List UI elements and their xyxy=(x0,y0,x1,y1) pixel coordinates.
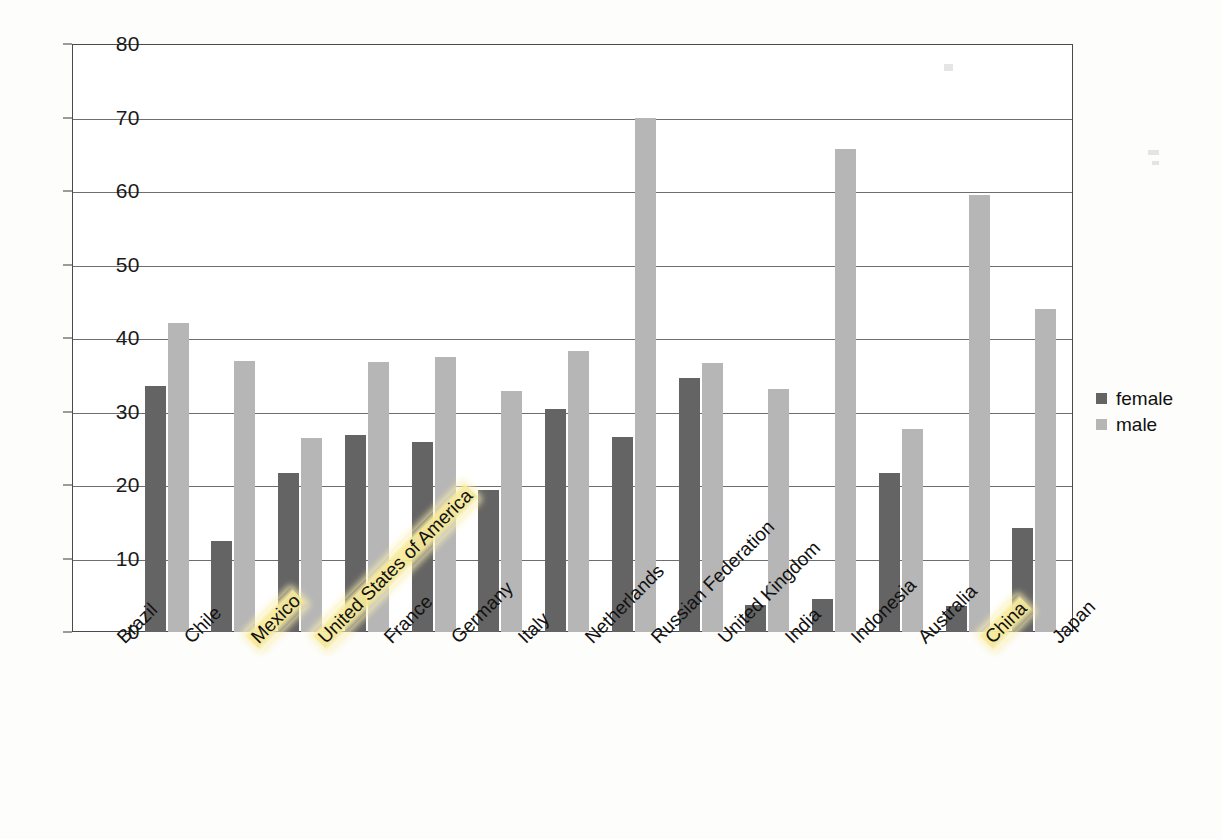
scan-speck xyxy=(944,64,953,71)
bar-male[interactable] xyxy=(168,323,189,632)
bar-male[interactable] xyxy=(568,351,589,633)
bar-group xyxy=(472,44,539,632)
bar-female[interactable] xyxy=(545,409,566,632)
bar-male[interactable] xyxy=(234,361,255,632)
scan-speck xyxy=(1148,150,1159,155)
bar-male[interactable] xyxy=(835,149,856,632)
bar-chart-figure: 01020304050607080 BrazilChileMexicoUnite… xyxy=(0,0,1221,839)
y-tick-mark-70 xyxy=(63,117,72,118)
y-tick-mark-30 xyxy=(63,411,72,412)
bar-male[interactable] xyxy=(1035,309,1056,632)
bar-group xyxy=(72,44,139,632)
y-tick-mark-10 xyxy=(63,558,72,559)
male-swatch-icon xyxy=(1096,419,1107,430)
bar-male[interactable] xyxy=(635,118,656,633)
bars-layer xyxy=(72,44,1073,632)
bar-group xyxy=(673,44,740,632)
legend-item-female[interactable]: female xyxy=(1096,385,1173,411)
scan-speck xyxy=(1152,161,1159,165)
y-tick-mark-80 xyxy=(63,44,72,45)
y-tick-mark-20 xyxy=(63,485,72,486)
y-tick-mark-60 xyxy=(63,191,72,192)
bar-group xyxy=(339,44,406,632)
bar-group xyxy=(205,44,272,632)
bar-group xyxy=(940,44,1007,632)
bar-group xyxy=(873,44,940,632)
y-tick-mark-0 xyxy=(63,632,72,633)
bar-group xyxy=(1006,44,1073,632)
bar-group xyxy=(606,44,673,632)
legend-item-male[interactable]: male xyxy=(1096,411,1173,437)
female-swatch-icon xyxy=(1096,393,1107,404)
legend-label-female: female xyxy=(1116,389,1173,408)
bar-male[interactable] xyxy=(969,195,990,632)
bar-group xyxy=(272,44,339,632)
chart-legend: female male xyxy=(1096,385,1173,437)
bar-group xyxy=(139,44,206,632)
y-tick-mark-50 xyxy=(63,264,72,265)
y-tick-mark-40 xyxy=(63,338,72,339)
x-axis-labels: BrazilChileMexicoUnited States of Americ… xyxy=(72,634,1073,814)
bar-group xyxy=(539,44,606,632)
bar-female[interactable] xyxy=(145,386,166,632)
legend-label-male: male xyxy=(1116,415,1157,434)
